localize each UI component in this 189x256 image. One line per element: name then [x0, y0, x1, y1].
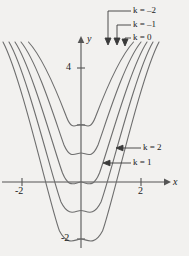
x-axis-label: x [173, 177, 177, 187]
top-leader-group [105, 11, 131, 46]
callout-label-k-minus-1: k = –1 [133, 20, 156, 29]
leader-arrow-k-zero-icon [122, 39, 128, 46]
callout-label-k-minus-2: k = –2 [133, 6, 156, 15]
callout-label-k-zero: k = 0 [133, 33, 152, 42]
leader-k-minus-1 [117, 25, 131, 38]
callout-label-k-2: k = 2 [143, 143, 162, 152]
leader-arrow-k-minus-2-icon [105, 38, 111, 45]
leader-k-minus-2 [108, 11, 131, 38]
x-tick-label-minus2: -2 [15, 186, 23, 196]
parabola-family-figure: x y -2 2 4 -2 k = –2 k = –1 k = 0 k = 2 … [0, 0, 189, 256]
plot-canvas [0, 0, 189, 256]
x-axis-arrow-icon [164, 179, 171, 186]
leader-arrow-k-minus-1-icon [114, 38, 120, 45]
y-axis-arrow-icon [78, 36, 85, 43]
callout-label-k-1: k = 1 [133, 158, 152, 167]
x-tick-label-2: 2 [138, 186, 143, 196]
y-axis-label: y [87, 34, 91, 44]
y-tick-label-minus2: -2 [61, 233, 69, 243]
y-tick-label-4: 4 [66, 62, 71, 72]
